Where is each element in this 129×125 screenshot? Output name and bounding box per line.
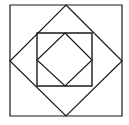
nested-squares-diagram bbox=[0, 0, 129, 125]
inner-square bbox=[37, 33, 92, 86]
outer-diamond bbox=[10, 5, 122, 116]
outer-square bbox=[10, 5, 122, 116]
inner-diamond bbox=[37, 33, 92, 86]
